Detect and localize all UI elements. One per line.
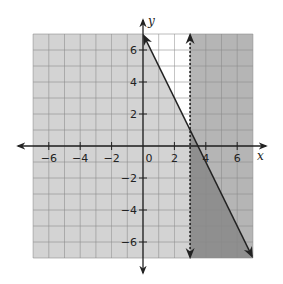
x-tick-label: 0 (146, 152, 153, 165)
x-tick-label: −6 (41, 152, 57, 165)
y-tick-label: −4 (121, 204, 137, 217)
y-tick-label: 6 (130, 44, 137, 57)
y-axis-label: y (147, 14, 155, 28)
y-tick-label: 2 (130, 108, 137, 121)
inequality-graph: −6−4−20246642−2−4−6xy (0, 0, 283, 284)
y-tick-label: −2 (121, 172, 137, 185)
x-tick-label: 2 (171, 152, 178, 165)
x-tick-label: −2 (103, 152, 119, 165)
x-tick-label: 4 (202, 152, 209, 165)
x-tick-label: −4 (72, 152, 88, 165)
x-tick-label: 6 (234, 152, 241, 165)
x-axis-label: x (257, 149, 264, 163)
y-tick-label: 4 (130, 76, 137, 89)
y-tick-label: −6 (121, 236, 137, 249)
